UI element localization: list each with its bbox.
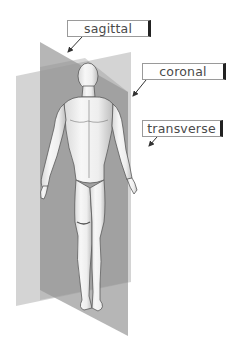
label-coronal: coronal [142,63,226,80]
transverse-arrow [149,137,157,146]
sagittal-arrow [68,37,82,52]
coronal-arrow [133,80,146,96]
head [78,63,98,89]
label-sagittal: sagittal [67,20,151,37]
label-transverse: transverse [142,120,223,137]
anatomical-planes-diagram [0,0,236,340]
